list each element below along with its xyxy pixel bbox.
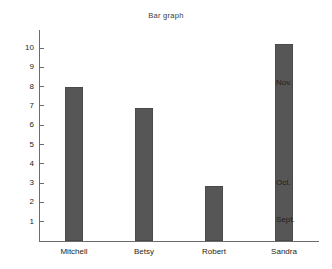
x-axis-label-betsy: Betsy (104, 247, 184, 256)
bar-robert (205, 186, 223, 241)
y-axis-tick (39, 48, 44, 49)
y-axis-tick-label: 10 (10, 44, 34, 52)
y-axis-tick (39, 86, 44, 87)
x-axis-label-mitchell: Mitchell (34, 247, 114, 256)
y-axis-tick-label: 3 (10, 179, 34, 187)
y-axis-tick-label: 1 (10, 218, 34, 226)
annotation-oct: Oct. (276, 179, 291, 187)
annotation-nov: Nov. (276, 79, 292, 87)
x-axis-label-robert: Robert (174, 247, 254, 256)
y-axis-tick-label: 9 (10, 63, 34, 71)
chart-title: Bar graph (0, 11, 332, 20)
y-axis-tick (39, 144, 44, 145)
annotation-sept: Sept. (276, 216, 295, 224)
y-axis-line (39, 30, 40, 241)
y-axis-tick (39, 202, 44, 203)
bar-chart: Bar graph 12345678910 MitchellBetsyRober… (0, 0, 332, 269)
y-axis-tick (39, 221, 44, 222)
y-axis-tick-label: 5 (10, 141, 34, 149)
bar-betsy (135, 108, 153, 241)
y-axis-tick (39, 125, 44, 126)
y-axis-tick-label: 2 (10, 198, 34, 206)
y-axis-tick (39, 163, 44, 164)
x-axis-label-sandra: Sandra (244, 247, 324, 256)
bar-sandra (275, 44, 293, 241)
y-axis-tick (39, 183, 44, 184)
x-axis-line (39, 241, 319, 242)
y-axis-tick-label: 7 (10, 102, 34, 110)
y-axis-tick-label: 6 (10, 121, 34, 129)
y-axis-tick-label: 8 (10, 83, 34, 91)
bar-mitchell (65, 87, 83, 241)
y-axis-tick-label: 4 (10, 160, 34, 168)
y-axis-tick (39, 67, 44, 68)
y-axis-tick (39, 105, 44, 106)
